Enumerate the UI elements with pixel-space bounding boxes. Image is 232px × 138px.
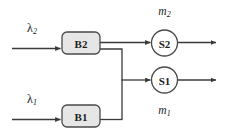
node-server-s1[interactable]: S1 (152, 67, 178, 93)
label-arrival-rate-1-sub: 1 (33, 98, 37, 107)
label-arrival-rate-2: λ2 (27, 21, 37, 36)
label-service-rate-2-sub: 2 (167, 10, 171, 19)
edge-b2-to-junction (100, 49, 122, 119)
queueing-network-diagram: B2 B1 S2 S1 λ2 (0, 0, 232, 138)
label-service-rate-2: m2 (158, 5, 170, 19)
diagram-canvas: B2 B1 S2 S1 λ2 (0, 0, 232, 138)
buffer-b1-label: B1 (75, 111, 88, 123)
server-s1-label: S1 (159, 75, 171, 87)
label-arrival-rate-1: λ1 (27, 92, 37, 107)
node-buffer-b2[interactable]: B2 (62, 32, 100, 54)
label-service-rate-1-base: m (158, 104, 166, 116)
label-service-rate-1-sub: 1 (167, 109, 171, 118)
labels-layer: λ2 λ1 m2 m1 (27, 5, 171, 118)
label-arrival-rate-2-sub: 2 (33, 27, 37, 36)
server-s2-label: S2 (159, 38, 171, 50)
label-service-rate-1: m1 (158, 104, 170, 118)
node-server-s2[interactable]: S2 (152, 30, 178, 56)
buffer-b2-label: B2 (75, 38, 88, 50)
edges-layer (12, 43, 216, 120)
label-service-rate-2-base: m (158, 5, 166, 17)
node-buffer-b1[interactable]: B1 (62, 105, 100, 127)
